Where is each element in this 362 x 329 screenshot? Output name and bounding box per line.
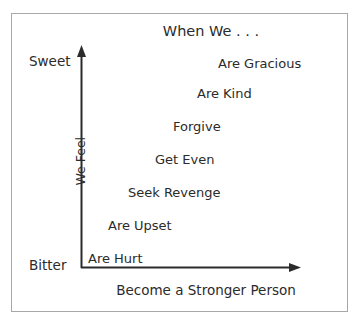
y-axis-title: We Feel [75,133,88,189]
figure-root: When We . . . Sweet Bitter We Feel Becom… [0,0,362,329]
step-label: Are Kind [197,87,252,100]
chart-title: When We . . . [0,24,362,39]
step-label: Seek Revenge [128,186,221,199]
step-label: Forgive [173,120,221,133]
step-label: Get Even [155,153,214,166]
step-label: Are Upset [108,219,172,232]
y-axis-top-label-sweet: Sweet [29,55,71,69]
x-axis-title: Become a Stronger Person [81,284,331,298]
y-axis-bottom-label-bitter: Bitter [29,259,66,273]
step-label: Are Hurt [88,252,143,265]
step-label: Are Gracious [218,57,301,70]
